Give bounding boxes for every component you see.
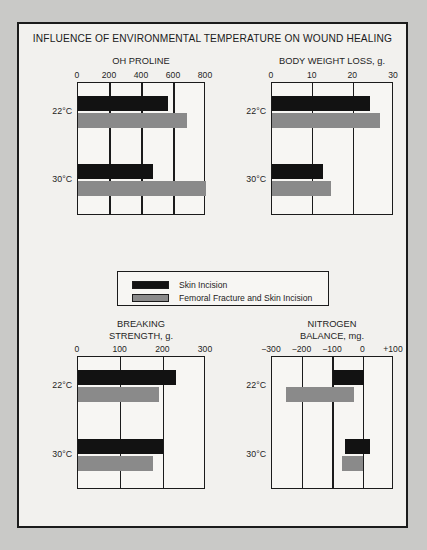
bar-nitrogen-balance-femoral-fracture-1 [342,456,363,471]
bar-breaking-strength-skin-incision-1 [78,439,163,454]
legend-label-skin-incision: Skin Incision [179,280,227,290]
category-label-body-weight-loss-1: 30°C [238,174,266,184]
legend-item-skin-incision: Skin Incision [132,280,227,290]
x-tick-label: 30 [388,70,398,80]
chart-title-line: OH PROLINE [77,56,205,68]
x-tick-label: 400 [134,70,148,80]
category-label-nitrogen-balance-1: 30°C [238,449,266,459]
bar-nitrogen-balance-skin-incision-0 [333,370,364,385]
legend-label-femoral-fracture-and-skin-incision: Femoral Fracture and Skin Incision [179,293,312,303]
x-tick-label: 0 [75,344,80,354]
category-label-body-weight-loss-0: 22°C [238,106,266,116]
x-tick-label: 300 [198,344,212,354]
legend-item-femoral-fracture-and-skin-incision: Femoral Fracture and Skin Incision [132,293,312,303]
figure-title: INFLUENCE OF ENVIRONMENTAL TEMPERATURE O… [19,33,406,44]
bar-body-weight-loss-skin-incision-1 [272,164,323,179]
category-label-breaking-strength-0: 22°C [44,380,72,390]
category-label-oh-proline-0: 22°C [44,106,72,116]
bar-nitrogen-balance-femoral-fracture-0 [286,387,355,402]
plot-area-oh-proline [77,82,205,215]
bar-oh-proline-skin-incision-1 [78,164,153,179]
gridline [302,357,304,488]
x-tick-label: +100 [383,344,402,354]
x-tick-label: −300 [261,344,280,354]
bar-body-weight-loss-femoral-fracture-0 [272,113,380,128]
category-label-nitrogen-balance-0: 22°C [238,380,266,390]
legend-swatch-skin-incision [132,281,169,290]
plot-area-nitrogen-balance [271,356,393,489]
bar-body-weight-loss-femoral-fracture-1 [272,181,331,196]
x-tick-label: 20 [348,70,358,80]
chart-title-breaking-strength: BREAKINGSTRENGTH, g. [77,319,205,342]
figure-frame: INFLUENCE OF ENVIRONMENTAL TEMPERATURE O… [17,22,408,528]
x-tick-label: −100 [322,344,341,354]
bar-oh-proline-femoral-fracture-0 [78,113,187,128]
chart-title-line: BODY WEIGHT LOSS, g. [271,56,393,68]
bar-oh-proline-skin-incision-0 [78,96,168,111]
chart-title-line: BREAKING [77,319,205,331]
x-tick-label: 0 [75,70,80,80]
chart-title-body-weight-loss: BODY WEIGHT LOSS, g. [271,56,393,68]
bar-breaking-strength-femoral-fracture-0 [78,387,159,402]
plot-area-body-weight-loss [271,82,393,215]
plot-area-breaking-strength [77,356,205,489]
bar-breaking-strength-femoral-fracture-1 [78,456,153,471]
x-axis-ticks-oh-proline: 0200400600800 [77,70,205,82]
bar-breaking-strength-skin-incision-0 [78,370,176,385]
x-tick-label: 0 [269,70,274,80]
x-tick-label: 600 [166,70,180,80]
bar-body-weight-loss-skin-incision-0 [272,96,370,111]
x-axis-ticks-body-weight-loss: 0102030 [271,70,393,82]
bar-oh-proline-femoral-fracture-1 [78,181,206,196]
category-label-oh-proline-1: 30°C [44,174,72,184]
x-tick-label: 0 [360,344,365,354]
legend: Skin IncisionFemoral Fracture and Skin I… [117,271,329,306]
chart-title-line: BALANCE, mg. [271,331,393,343]
x-tick-label: −200 [292,344,311,354]
legend-swatch-femoral-fracture-and-skin-incision [132,294,169,303]
x-tick-label: 200 [102,70,116,80]
chart-title-line: NITROGEN [271,319,393,331]
chart-title-line: STRENGTH, g. [77,331,205,343]
x-tick-label: 100 [112,344,126,354]
category-label-breaking-strength-1: 30°C [44,449,72,459]
x-tick-label: 10 [307,70,317,80]
x-axis-ticks-nitrogen-balance: −300−200−1000+100 [271,344,393,356]
chart-title-nitrogen-balance: NITROGENBALANCE, mg. [271,319,393,342]
chart-title-oh-proline: OH PROLINE [77,56,205,68]
x-tick-label: 800 [198,70,212,80]
x-tick-label: 200 [155,344,169,354]
x-axis-ticks-breaking-strength: 0100200300 [77,344,205,356]
bar-nitrogen-balance-skin-incision-1 [345,439,369,454]
